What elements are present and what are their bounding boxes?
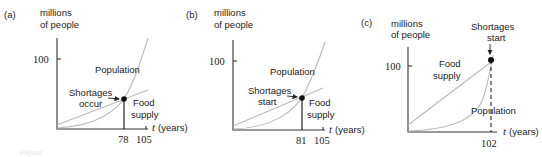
- panel-a-intersection-point: [121, 96, 127, 102]
- panel-b-xlabel-t: t: [329, 123, 333, 135]
- panel-c-xlabel-t: t: [503, 125, 507, 137]
- panel-b-ytick-label: 100: [209, 56, 225, 67]
- panel-a: (a) millions of people 100 Population Sh…: [4, 7, 188, 145]
- panel-c-population-label: Population: [471, 105, 516, 116]
- panel-a-ylabel-line2: of people: [40, 19, 79, 30]
- panel-a-xtick-105: 105: [136, 134, 152, 145]
- panel-c: (c) millions of people 100 Shortages sta…: [361, 17, 539, 149]
- panel-a-tag: (a): [4, 9, 16, 20]
- figure-caption: Figure: [20, 148, 43, 157]
- panel-a-food-label-2: supply: [131, 109, 159, 120]
- panel-c-ylabel-line1: millions: [391, 18, 423, 29]
- panel-a-ylabel-line1: millions: [40, 7, 72, 18]
- panel-b-food-label-2: supply: [307, 109, 335, 120]
- panel-a-shortages-label-2: occur: [79, 98, 102, 109]
- panel-a-food-label-1: Food: [133, 97, 155, 108]
- panel-c-xtick-102: 102: [481, 138, 497, 149]
- panel-a-arrow-icon: [108, 98, 119, 99]
- panel-c-food-label-2: supply: [433, 70, 461, 81]
- panel-b: (b) millions of people 100 Population Sh…: [186, 7, 365, 146]
- panel-b-food-label-1: Food: [309, 97, 331, 108]
- panel-b-intersection-point: [299, 95, 305, 101]
- panel-b-arrow-icon: [287, 96, 297, 97]
- panel-b-shortages-label-1: Shortages: [248, 85, 292, 96]
- panel-c-food-label-1: Food: [439, 58, 461, 69]
- panel-c-ylabel-line2: of people: [391, 29, 430, 40]
- panel-b-xlabel-unit: (years): [335, 124, 365, 135]
- panel-c-shortages-label-1: Shortages: [471, 21, 515, 32]
- panel-c-shortages-label-2: start: [487, 32, 506, 43]
- panel-a-xtick-78: 78: [118, 134, 129, 145]
- panel-a-population-label: Population: [95, 64, 140, 75]
- panel-c-intersection-point: [488, 57, 494, 63]
- panel-b-shortages-label-2: start: [258, 96, 277, 107]
- panel-a-xlabel-t: t: [152, 121, 156, 133]
- panel-a-xlabel-unit: (years): [158, 122, 188, 133]
- panel-b-ylabel-line2: of people: [214, 19, 253, 30]
- panel-a-shortages-label-1: Shortages: [69, 87, 113, 98]
- panel-b-ylabel-line1: millions: [214, 7, 246, 18]
- figure: (a) millions of people 100 Population Sh…: [0, 0, 542, 157]
- panel-a-ytick-label: 100: [33, 54, 49, 65]
- panel-b-population-label: Population: [270, 66, 315, 77]
- panel-b-tag: (b): [186, 9, 198, 20]
- panel-b-xtick-81: 81: [296, 135, 307, 146]
- panel-c-ytick-label: 100: [385, 61, 401, 72]
- panel-b-xtick-105: 105: [314, 135, 330, 146]
- panel-c-xlabel-unit: (years): [509, 126, 539, 137]
- panel-c-tag: (c): [361, 17, 372, 28]
